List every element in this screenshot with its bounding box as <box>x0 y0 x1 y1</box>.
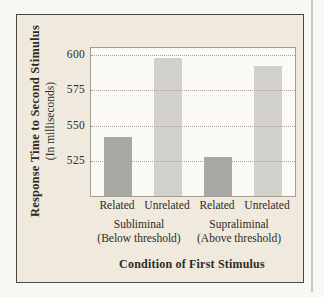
x-group-labels: Subliminal (Below threshold) Supralimina… <box>17 218 305 248</box>
y-tick-525: 525 <box>67 154 85 166</box>
gridline-525 <box>91 161 295 162</box>
bar-unrelated-supraliminal <box>254 66 282 196</box>
gridline-575 <box>91 90 295 91</box>
figure-frame: Response Time to Second Stimulus (In mil… <box>16 14 304 283</box>
page: { "figure": { "y_axis_title": "Response … <box>0 0 324 297</box>
bar-related-supraliminal <box>204 157 232 196</box>
x-tick-3: Unrelated <box>227 199 307 211</box>
bar-unrelated-subliminal <box>154 58 182 196</box>
y-tick-600: 600 <box>67 48 85 60</box>
group-label-supraliminal: Supraliminal (Above threshold) <box>179 218 299 245</box>
group-label-supraliminal-name: Supraliminal <box>179 218 299 232</box>
scanned-page-edge <box>311 0 313 292</box>
y-tick-575: 575 <box>67 83 85 95</box>
gridline-550 <box>91 126 295 127</box>
plot-area <box>90 47 296 197</box>
y-tick-labels: 525550575600 <box>17 47 85 195</box>
x-tick-labels: RelatedUnrelatedRelatedUnrelated <box>90 199 294 213</box>
y-tick-550: 550 <box>67 119 85 131</box>
bar-related-subliminal <box>104 137 132 196</box>
group-label-supraliminal-sub: (Above threshold) <box>179 232 299 246</box>
gridline-600 <box>91 55 295 56</box>
x-axis-title: Condition of First Stimulus <box>90 257 294 272</box>
